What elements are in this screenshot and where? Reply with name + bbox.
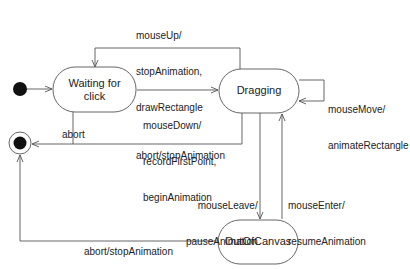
transition-abort-waiting-label: abort bbox=[62, 129, 85, 141]
transition-abort-outofcanvas-label: abort/stopAnimation bbox=[84, 246, 173, 258]
label-line: resumeAnimation bbox=[288, 236, 366, 248]
label-line: stopAnimation, bbox=[136, 66, 203, 78]
label-line: pauseAnimation bbox=[186, 236, 258, 248]
transition-abort-dragging-label: abort/stopAnimation bbox=[136, 150, 225, 162]
label-line: mouseLeave/ bbox=[186, 200, 258, 212]
label-line: mouseEnter/ bbox=[288, 200, 366, 212]
state-waiting-label: Waiting for click bbox=[53, 77, 136, 103]
transition-mousemove-label: mouseMove/ animateRectangle bbox=[328, 80, 409, 164]
transition-mouseleave-label: mouseLeave/ pauseAnimation bbox=[186, 176, 258, 260]
final-state-dot bbox=[14, 137, 27, 150]
initial-state bbox=[13, 82, 27, 96]
state-waiting-line2: click bbox=[53, 90, 136, 103]
label-line: mouseUp/ bbox=[136, 30, 203, 42]
label-line: mouseMove/ bbox=[328, 104, 409, 116]
transition-mouseenter-label: mouseEnter/ resumeAnimation bbox=[288, 176, 366, 260]
state-waiting-line1: Waiting for bbox=[53, 77, 136, 90]
state-dragging-label: Dragging bbox=[219, 84, 299, 97]
label-line: animateRectangle bbox=[328, 140, 409, 152]
label-line: mouseDown/ bbox=[143, 120, 216, 132]
